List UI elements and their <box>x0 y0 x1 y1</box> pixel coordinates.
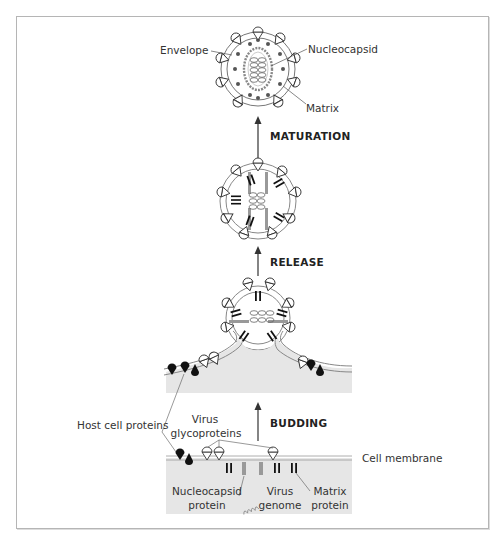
label-nucleocapsid: Nucleocapsid <box>308 43 378 55</box>
label-matrix-protein-1: Matrix <box>313 485 346 497</box>
stage-budding: BUDDING <box>270 417 327 429</box>
stage-maturation: MATURATION <box>270 130 351 142</box>
label-nucleocapsid-protein-2: protein <box>188 499 225 511</box>
label-virus-genome-2: genome <box>259 499 302 511</box>
label-nucleocapsid-protein-1: Nucleocapsid <box>172 485 242 497</box>
released-virion <box>216 158 302 240</box>
arrow-maturation <box>255 116 262 160</box>
label-matrix-protein-2: protein <box>311 499 348 511</box>
label-host-cell-proteins: Host cell proteins <box>77 419 168 431</box>
arrow-release <box>255 246 262 276</box>
stage-release: RELEASE <box>270 256 324 268</box>
budding-cell <box>164 277 352 393</box>
label-virus-glycoproteins-2: glycoproteins <box>171 427 242 439</box>
label-cell-membrane: Cell membrane <box>362 452 442 464</box>
label-matrix: Matrix <box>306 102 339 114</box>
label-virus-glycoproteins-1: Virus <box>192 413 218 425</box>
arrow-budding <box>255 402 262 441</box>
mature-virion <box>211 27 307 109</box>
leader-virus-glycoproteins <box>219 440 273 448</box>
label-virus-genome-1: Virus <box>267 485 293 497</box>
label-envelope: Envelope <box>160 44 208 56</box>
virus-assembly-diagram: Envelope Nucleocapsid Matrix MATURATION <box>0 0 501 540</box>
